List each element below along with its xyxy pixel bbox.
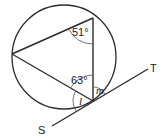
diagram-svg: 51° 63° m l S T [0, 0, 167, 140]
point-label-t: T [150, 62, 157, 74]
angle-label-63: 63° [71, 74, 88, 86]
point-label-s: S [38, 124, 45, 136]
tangent-line-st [52, 69, 148, 126]
angle-label-l: l [79, 95, 82, 107]
geometry-diagram: 51° 63° m l S T [0, 0, 167, 140]
angle-label-51: 51° [72, 26, 89, 38]
angle-label-m: m [96, 84, 104, 96]
